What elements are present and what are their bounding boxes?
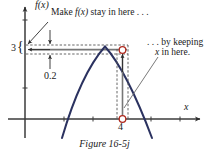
top-annotation-suffix: stay in here . . . — [88, 7, 148, 17]
delta-interval-guides — [117, 45, 128, 119]
epsilon-band-guides — [26, 45, 128, 54]
top-annotation-leader-arrow — [28, 22, 48, 44]
axes — [8, 7, 200, 138]
top-annotation-prefix: Make — [51, 7, 75, 17]
y-axis-label: f(x) — [35, 0, 49, 11]
y-tick-label-3: 3 — [11, 43, 16, 54]
y-tick-brace: { — [17, 40, 24, 54]
right-annotation-line2-rest: in here. — [159, 47, 190, 57]
parabola-curve — [62, 47, 152, 139]
right-annotation-line1: . . . by keeping — [147, 37, 203, 47]
x-axis-label: x — [184, 102, 188, 113]
right-annotation-line2: x in here. — [155, 48, 203, 58]
band-width-label: 0.2 — [44, 71, 57, 82]
graph-canvas — [0, 0, 209, 158]
top-annotation-function: f(x) — [75, 7, 88, 17]
top-annotation: Make f(x) stay in here . . . — [51, 8, 149, 18]
x-tick-label-4: 4 — [118, 122, 123, 133]
figure-caption: Figure 16-5j — [0, 138, 209, 149]
figure-container: f(x) x 3 { 0.2 4 Make f(x) stay in here … — [0, 0, 209, 158]
right-annotation: . . . by keeping x in here. — [147, 38, 203, 58]
marker-point-on-curve — [119, 47, 126, 54]
